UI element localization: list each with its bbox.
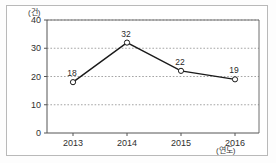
plot-area: 010203040 2013201420152016 18322219 bbox=[0, 0, 276, 163]
chart-figure: (건) (연도) 010203040 bbox=[0, 0, 276, 163]
data-value-label: 22 bbox=[175, 57, 185, 67]
data-point bbox=[232, 77, 237, 82]
line-chart-svg: 010203040 2013201420152016 18322219 bbox=[0, 0, 276, 163]
x-tick-label: 2014 bbox=[117, 138, 137, 148]
data-value-label: 19 bbox=[229, 65, 239, 75]
data-value-label: 18 bbox=[67, 68, 77, 78]
y-tick-label: 0 bbox=[36, 128, 41, 138]
data-point bbox=[70, 80, 75, 85]
y-tick-label: 40 bbox=[31, 15, 41, 25]
y-tick-label: 20 bbox=[31, 72, 41, 82]
y-axis-tick-labels: 010203040 bbox=[31, 15, 41, 138]
data-point bbox=[178, 68, 183, 73]
y-tick-label: 30 bbox=[31, 43, 41, 53]
x-axis-tick-labels: 2013201420152016 bbox=[63, 138, 245, 148]
x-tick-label: 2015 bbox=[171, 138, 191, 148]
x-tick-label: 2013 bbox=[63, 138, 83, 148]
gridlines bbox=[47, 20, 259, 105]
x-tick-label: 2016 bbox=[225, 138, 245, 148]
data-value-labels: 18322219 bbox=[67, 29, 239, 79]
data-point bbox=[124, 40, 129, 45]
data-point-markers bbox=[70, 40, 237, 85]
data-value-label: 32 bbox=[121, 29, 131, 39]
y-tick-label: 10 bbox=[31, 100, 41, 110]
